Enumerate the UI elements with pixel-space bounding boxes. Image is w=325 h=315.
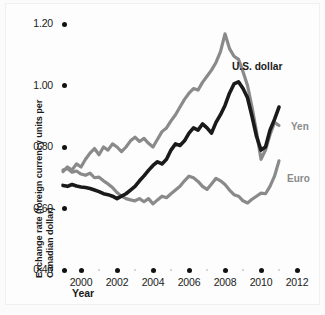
y-tick-dot [62,268,67,273]
y-tick-dot [62,22,67,27]
x-tick-label: 2002 [97,276,137,288]
series-label-us-dollar: U.S. dollar [232,61,282,72]
series-label-yen: Yen [291,121,309,132]
y-tick-dot [62,145,67,150]
y-tick-label: 1.00 [13,79,53,91]
x-tick-dot [115,268,120,273]
x-tick-dot [187,268,192,273]
x-tick-dot [79,268,84,273]
x-tick-dot [295,268,300,273]
series-layer [63,34,279,204]
y-tick-dot [62,83,67,88]
x-tick-dot [151,268,156,273]
y-axis-title-wrap: Exchange rate (foreign currency units pe… [14,100,36,280]
y-tick-label: 1.20 [13,17,53,29]
x-tick-dot [259,268,264,273]
y-tick-dot [62,206,67,211]
x-tick-label: 2012 [277,276,317,288]
chart-figure: 1.201.000.800.600.40 2000200220042006200… [0,0,325,315]
x-tick-dot [223,268,228,273]
series-line-u-s-dollar [63,82,279,199]
x-tick-label: 2006 [169,276,209,288]
x-tick-label: 2004 [133,276,173,288]
series-line-euro [63,161,279,204]
x-axis-title: Year [72,287,94,299]
chart-plate: 1.201.000.800.600.40 2000200220042006200… [6,4,319,304]
series-label-euro: Euro [287,173,310,184]
x-tick-label: 2010 [241,276,281,288]
y-axis-title: Exchange rate (foreign currency units pe… [34,98,55,278]
x-tick-label: 2008 [205,276,245,288]
